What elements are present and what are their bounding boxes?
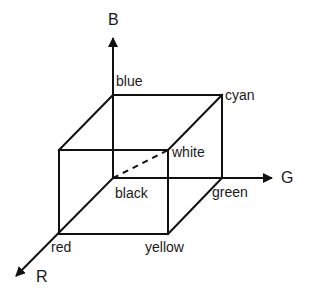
vertex-label-white: white bbox=[172, 145, 205, 159]
vertex-label-black: black bbox=[115, 186, 148, 200]
cube-edges bbox=[59, 95, 222, 234]
vertex-label-yellow: yellow bbox=[145, 240, 184, 254]
cube-edge-blue-top_front_left bbox=[59, 95, 113, 150]
vertex-label-blue: blue bbox=[116, 74, 142, 88]
axis-label-g: G bbox=[281, 170, 293, 186]
cube-edge-cyan-white bbox=[168, 95, 222, 150]
rgb-cube-diagram: B G R blue cyan white black green red ye… bbox=[0, 0, 310, 298]
axis-label-b: B bbox=[108, 12, 119, 28]
vertex-label-cyan: cyan bbox=[225, 88, 255, 102]
axis-label-r: R bbox=[36, 269, 48, 285]
vertex-label-green: green bbox=[212, 185, 248, 199]
axis-r-arrow bbox=[16, 178, 113, 276]
cube-edge-dashed-black-white bbox=[113, 150, 168, 178]
hidden-diagonal-edge bbox=[113, 150, 168, 178]
vertex-label-red: red bbox=[51, 240, 71, 254]
